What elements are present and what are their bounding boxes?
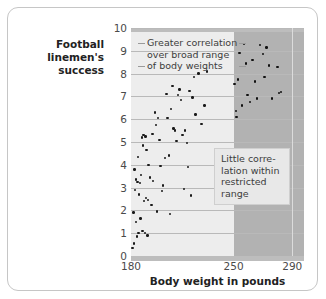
restricted-annotation-line-1: Little corre- (221, 153, 284, 165)
scatter-point (233, 83, 235, 85)
gridline (131, 142, 304, 143)
scatter-point (276, 66, 278, 68)
scatter-point (131, 247, 133, 249)
scatter-point (138, 193, 140, 195)
broad-annotation-dash-right-2 (239, 66, 246, 67)
scatter-point (188, 90, 190, 92)
scatter-point (149, 176, 151, 178)
scatter-point (133, 168, 135, 170)
scatter-point (144, 135, 146, 137)
scatter-point (159, 165, 161, 167)
scatter-point (158, 139, 160, 141)
scatter-point (174, 129, 176, 131)
y-axis-title-line-2: success (20, 64, 104, 77)
x-axis-title: Body weight in pounds (131, 275, 304, 287)
y-axis-title: Football linemen's success (20, 38, 104, 77)
scatter-point (171, 85, 173, 87)
vertical-gridline-290 (292, 28, 293, 256)
scatter-point (271, 97, 273, 99)
scatter-point (132, 211, 134, 213)
scatter-point (175, 140, 177, 142)
scatter-point (136, 235, 138, 237)
y-tick-label: 1 (105, 228, 127, 238)
broad-annotation-line-2: over broad range (147, 49, 239, 61)
scatter-point (145, 149, 147, 151)
scatter-point (254, 80, 256, 82)
scatter-point (237, 78, 239, 80)
y-axis-ticks: 109876543210 (104, 28, 127, 256)
y-tick-label: 9 (105, 46, 127, 56)
scatter-point (133, 242, 135, 244)
scatter-point (263, 76, 265, 78)
scatter-point (146, 234, 148, 236)
gridline (131, 233, 304, 234)
scatter-point (191, 96, 193, 98)
scatter-point (151, 133, 153, 135)
restricted-range-annotation: Little corre- lation within restricted r… (214, 148, 290, 205)
scatter-point (197, 72, 199, 74)
gridline (131, 96, 304, 97)
broad-annotation-dash-left (138, 43, 145, 44)
scatter-point (142, 144, 144, 146)
y-tick-label: 8 (105, 69, 127, 79)
y-tick-label: 6 (105, 114, 127, 124)
scatter-point (200, 123, 202, 125)
scatter-point (154, 111, 156, 113)
restricted-annotation-line-2: lation within (221, 165, 284, 177)
x-tick-label: 180 (111, 260, 151, 272)
broad-annotation-line-3: of body weights (147, 60, 239, 72)
scatter-point (180, 99, 182, 101)
scatter-point (194, 113, 196, 115)
scatter-point (203, 104, 205, 106)
gridline (131, 119, 304, 120)
broad-annotation-line-1: Greater correlation (147, 37, 239, 49)
scatter-point (141, 136, 143, 138)
scatter-point (183, 188, 185, 190)
y-tick-label: 4 (105, 160, 127, 170)
y-tick-label: 5 (105, 137, 127, 147)
y-tick-label: 10 (105, 23, 127, 33)
scatter-point (235, 116, 237, 118)
restricted-annotation-line-3: restricted (221, 176, 284, 188)
scatter-point (241, 104, 243, 106)
y-tick-label: 2 (105, 205, 127, 215)
y-axis-title-line-1: Football linemen's (20, 38, 104, 64)
scatter-point (251, 59, 253, 61)
scatter-point (245, 62, 247, 64)
x-tick-label: 290 (272, 260, 312, 272)
scatter-point (178, 88, 180, 90)
scatter-point (137, 156, 139, 158)
scatter-point (134, 189, 136, 191)
scatter-point (147, 164, 149, 166)
gridline (131, 28, 304, 29)
broad-annotation-dash-right (239, 43, 246, 44)
scatter-point (139, 217, 141, 219)
scatter-point (268, 64, 270, 66)
gridline (131, 74, 304, 75)
x-tick-label: 250 (214, 260, 254, 272)
restricted-annotation-line-4: range (221, 188, 284, 200)
scatter-point (135, 221, 137, 223)
broad-range-annotation: Greater correlation over broad range of … (147, 37, 239, 72)
figure-root: Football linemen's success 109876543210 … (0, 0, 326, 299)
y-tick-label: 7 (105, 91, 127, 101)
scatter-point (164, 157, 166, 159)
y-tick-label: 3 (105, 183, 127, 193)
scatter-point (265, 46, 267, 48)
scatter-point (150, 204, 152, 206)
broad-annotation-dash-left-2 (138, 66, 145, 67)
